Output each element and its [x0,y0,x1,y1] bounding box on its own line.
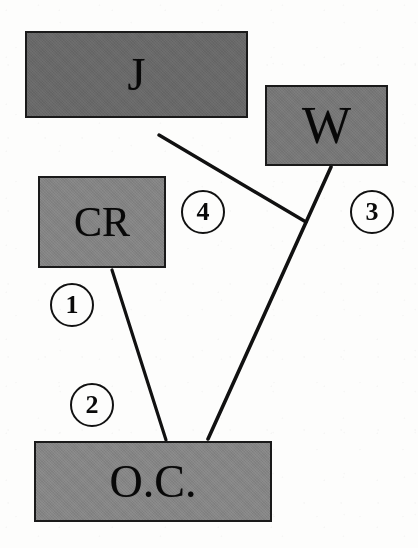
edge-badge-2[interactable]: 2 [70,383,114,427]
node-cr-label: CR [74,201,130,243]
node-cr[interactable]: CR [38,176,166,268]
node-w[interactable]: W [265,85,388,166]
edge-badge-1[interactable]: 1 [50,283,94,327]
node-oc-label: O.C. [110,459,197,505]
edge-badge-3-label: 3 [366,197,379,227]
node-oc[interactable]: O.C. [34,441,272,522]
edge-line-3 [208,167,331,439]
edge-line-1 [112,270,166,440]
edge-badge-3[interactable]: 3 [350,190,394,234]
node-j-label: J [128,52,146,98]
edge-badge-4-label: 4 [197,197,210,227]
edge-badge-1-label: 1 [66,290,79,320]
node-w-label: W [302,100,351,152]
edge-badge-2-label: 2 [86,390,99,420]
diagram-canvas: J W CR O.C. 1 2 3 4 [0,0,418,548]
node-j[interactable]: J [25,31,248,118]
edge-badge-4[interactable]: 4 [181,190,225,234]
